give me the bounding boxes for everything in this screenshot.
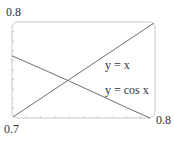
chart-svg: 0.8 0.7 0.8 y = x y = cos x (0, 0, 174, 142)
x-right-tick-label: 0.8 (156, 113, 171, 127)
annotation-y-equals-x: y = x (105, 58, 130, 72)
line-y-equals-x (13, 23, 154, 117)
origin-tick-label: 0.7 (4, 122, 19, 136)
annotation-y-equals-cos-x: y = cos x (105, 83, 149, 97)
y-top-tick-label: 0.8 (6, 5, 21, 19)
